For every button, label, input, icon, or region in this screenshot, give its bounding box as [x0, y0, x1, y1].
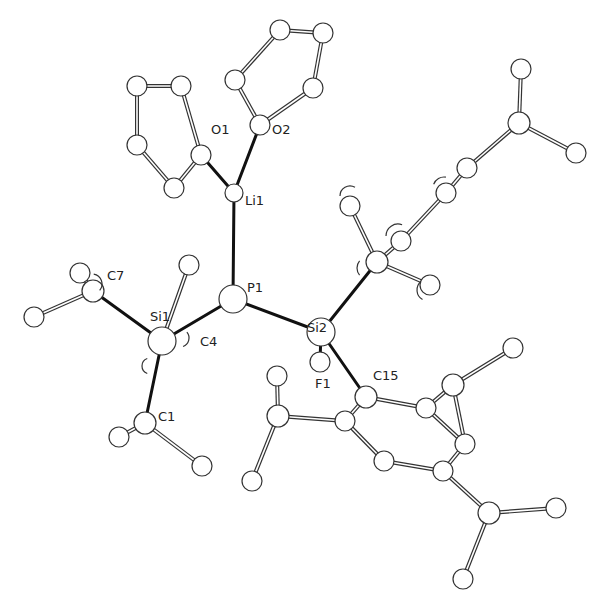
- atom-c1_a: [109, 427, 129, 447]
- label-si2: Si2: [307, 320, 327, 335]
- atom-thf2_b: [313, 23, 333, 43]
- solid-bond: [233, 193, 234, 299]
- atom-thf2_d: [303, 78, 323, 98]
- atom-iprc_b: [453, 569, 473, 589]
- atom-thf2_a: [270, 20, 290, 40]
- atoms: [24, 20, 586, 589]
- hidden-atom-arc: [183, 332, 189, 346]
- atom-p1: [219, 285, 247, 313]
- atom-c15: [355, 386, 377, 408]
- label-si1: Si1: [150, 309, 170, 324]
- atom-ipra_a: [267, 366, 287, 386]
- atom-cup_b: [420, 275, 440, 295]
- hidden-atom-arc: [357, 261, 360, 275]
- atom-iprb_a: [503, 338, 523, 358]
- label-o1: O1: [211, 122, 230, 137]
- atom-ar_c5: [416, 398, 436, 418]
- label-p1: P1: [247, 280, 263, 295]
- atom-ar2_b: [436, 183, 456, 203]
- atom-thf1_a: [127, 76, 147, 96]
- atom-thf1_c: [127, 135, 147, 155]
- atom-li1: [225, 184, 243, 202]
- atom-o2: [250, 115, 270, 135]
- atom-iprc_c: [478, 502, 500, 524]
- atom-c7_a: [70, 263, 90, 283]
- label-o2: O2: [272, 122, 291, 137]
- atom-f1: [310, 352, 330, 372]
- atom-iprb_c: [442, 374, 464, 396]
- open-bonds: [34, 30, 576, 579]
- atom-thf1_d: [164, 178, 184, 198]
- label-c1: C1: [158, 409, 175, 424]
- open-bond-inner: [181, 86, 201, 155]
- label-c7: C7: [107, 268, 124, 283]
- atom-thf1_b: [171, 76, 191, 96]
- solid-bond: [234, 125, 260, 193]
- atom-ar_c4: [455, 434, 475, 454]
- atom-ar2_d: [508, 112, 530, 134]
- atom-ar2_c: [457, 158, 477, 178]
- atom-o1: [191, 145, 211, 165]
- atom-ar_c1: [335, 411, 355, 431]
- label-c15: C15: [373, 368, 399, 383]
- hidden-atom-arc: [340, 186, 355, 196]
- atom-cup: [366, 251, 388, 273]
- atom-ipra_c: [267, 405, 289, 427]
- label-f1: F1: [315, 376, 331, 391]
- atom-c7_b: [24, 307, 44, 327]
- hidden-atom-arcs: [94, 177, 446, 374]
- atom-thf2_c: [225, 70, 245, 90]
- atom-ar2_a: [391, 231, 411, 251]
- atom-c1_b: [192, 456, 212, 476]
- atom-iprc_a: [546, 498, 566, 518]
- atom-ar_c2: [374, 451, 394, 471]
- atom-ar2_f: [566, 143, 586, 163]
- hidden-atom-arc: [142, 358, 147, 373]
- atom-ipra_b: [242, 471, 262, 491]
- atom-ar_c3: [433, 461, 453, 481]
- atom-cup_a: [340, 196, 360, 216]
- molecular-structure-diagram: O1O2Li1P1Si1C4C7C1Si2F1C15: [0, 0, 605, 607]
- atom-si1: [148, 327, 176, 355]
- solid-bonds: [93, 125, 377, 423]
- atom-c1: [134, 412, 156, 434]
- label-c4: C4: [200, 334, 217, 349]
- atom-ar2_e: [511, 59, 531, 79]
- atom-c7: [82, 280, 104, 302]
- atom-c4_top: [179, 255, 199, 275]
- label-li1: Li1: [245, 193, 264, 208]
